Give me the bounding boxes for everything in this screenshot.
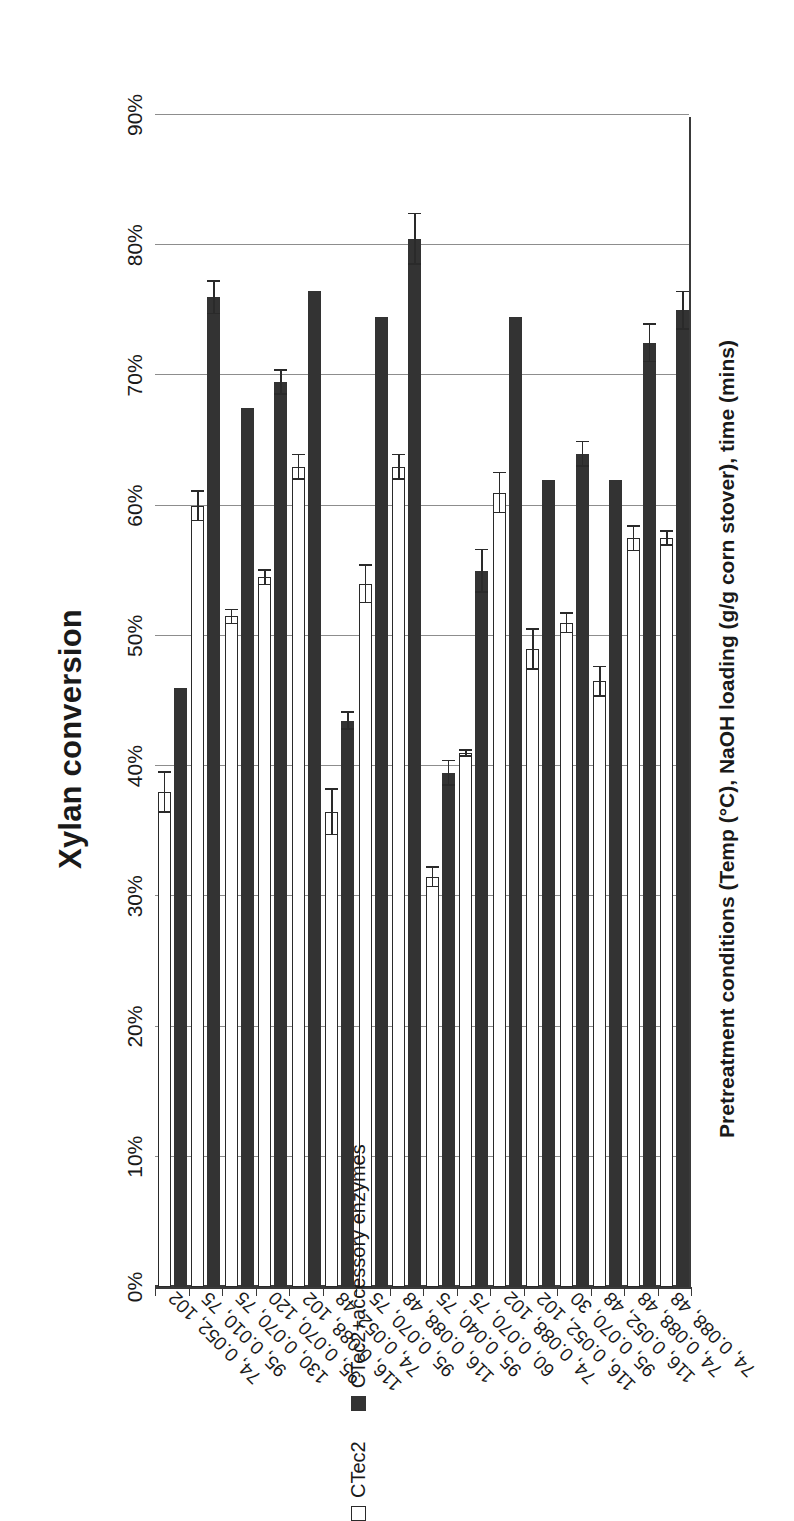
error-bar [408,212,421,264]
category-tick [155,1287,156,1296]
error-bar [593,665,606,696]
category-tick [524,1287,525,1296]
category-tick [390,1287,391,1296]
gridline-90% [155,114,689,115]
error-bar [526,628,539,670]
bar-solid [174,687,187,1286]
bar-solid [207,297,220,1287]
value-axis-tick-label: 0% [123,1271,147,1301]
category-tick [591,1287,592,1296]
bar-solid [475,570,488,1286]
error-bar [426,866,439,887]
bar-open [225,616,238,1287]
bar-group [592,117,622,1287]
category-tick [423,1287,424,1296]
value-axis-tick-label: 70% [123,354,147,396]
bar-group [257,117,287,1287]
bar-solid [308,290,321,1286]
plot-area: 0%10%20%30%40%50%60%70%80%90% [155,117,691,1289]
error-bar [643,323,656,362]
category-tick [222,1287,223,1296]
category-tick [658,1287,659,1296]
value-axis-tick-label: 10% [123,1135,147,1177]
category-tick [457,1287,458,1296]
bar-solid [442,772,455,1286]
bar-group [291,117,321,1287]
category-tick [323,1287,324,1296]
value-axis-tick-label: 50% [123,614,147,656]
bar-open [493,492,506,1286]
bar-group [391,117,421,1287]
error-bar [207,280,220,314]
bar-open [560,622,573,1286]
category-tick [691,1287,692,1296]
value-axis-tick-label: 20% [123,1005,147,1047]
category-axis-title: Pretreatment conditions (Temp (°C), NaOH… [715,49,739,1429]
error-bar [442,759,455,785]
legend-swatch-solid [351,1396,366,1411]
bar-open [593,681,606,1287]
value-axis-tick-label: 90% [123,93,147,135]
error-bar [560,612,573,633]
category-tick [624,1287,625,1296]
bar-open [392,466,405,1286]
error-bar [576,440,589,466]
error-bar [292,453,305,479]
value-axis-tick-label: 60% [123,484,147,526]
value-axis-tick-label: 30% [123,875,147,917]
category-tick [289,1287,290,1296]
category-tick [256,1287,257,1296]
error-bar [459,749,472,757]
bar-open [325,811,338,1286]
bar-group [492,117,522,1287]
chart-title: Xylan conversion [53,49,89,1429]
bar-group [324,117,354,1287]
bar-open [158,792,171,1287]
chart-figure: Xylan conversion 0%10%20%30%40%50%60%70%… [47,49,747,1429]
bar-group [425,117,455,1287]
error-bar [676,290,689,329]
category-tick [189,1287,190,1296]
bar-group [224,117,254,1287]
bar-group [626,117,656,1287]
bar-group [190,117,220,1287]
error-bar [359,564,372,603]
error-bar [493,471,506,513]
bar-solid [676,310,689,1287]
bar-solid [408,238,421,1286]
value-axis-tick-label: 80% [123,224,147,266]
legend-swatch-open [351,1506,366,1521]
legend-label: CTec2 [347,1441,370,1498]
bar-group [659,117,689,1287]
bar-open [258,577,271,1287]
bar-solid [609,479,622,1286]
error-bar [660,530,673,546]
bar-group [458,117,488,1287]
error-bar [158,771,171,813]
value-axis-tick-label: 40% [123,745,147,787]
bar-solid [542,479,555,1286]
bar-group [157,117,187,1287]
bar-open [426,876,439,1286]
bar-open [660,538,673,1287]
bar-solid [375,316,388,1286]
error-bar [191,490,204,521]
legend-item: CTec2 [347,1441,370,1521]
bar-group [358,117,388,1287]
bar-solid [576,453,589,1286]
bar-solid [643,342,656,1286]
error-bar [225,608,238,624]
error-bar [341,711,354,729]
bar-open [191,505,204,1286]
error-bar [475,548,488,592]
error-bar [325,788,338,835]
category-tick [490,1287,491,1296]
error-bar [258,569,271,585]
bar-solid [509,316,522,1286]
bar-open [459,753,472,1287]
bar-solid [274,381,287,1286]
bar-open [627,538,640,1287]
error-bar [274,368,287,394]
bar-group [525,117,555,1287]
category-tick [557,1287,558,1296]
